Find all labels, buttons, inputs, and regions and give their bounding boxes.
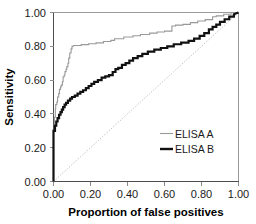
x-tick-label: 1.00 bbox=[228, 188, 249, 200]
y-axis-title: Sensitivity bbox=[3, 68, 15, 126]
y-tick-label: 0.40 bbox=[25, 108, 46, 120]
roc-chart-figure: 1.00 0.80 0.60 0.40 0.20 0.00 0.00 0.20 … bbox=[0, 0, 256, 224]
x-tick-labels: 0.00 0.20 0.40 0.60 0.80 1.00 bbox=[43, 188, 249, 200]
x-tick-label: 0.80 bbox=[191, 188, 212, 200]
x-tick-label: 0.60 bbox=[154, 188, 175, 200]
y-tick-label: 1.00 bbox=[25, 7, 46, 19]
plot-frame bbox=[54, 13, 239, 182]
y-tick-label: 0.80 bbox=[25, 40, 46, 52]
series-line-elisa-a bbox=[54, 13, 239, 182]
x-axis-ticks bbox=[54, 182, 239, 186]
y-tick-label: 0.20 bbox=[25, 142, 46, 154]
legend-label-elisa-a: ELISA A bbox=[175, 128, 214, 140]
y-tick-label: 0.60 bbox=[25, 74, 46, 86]
series-line-elisa-b bbox=[54, 13, 239, 182]
roc-chart-svg: 1.00 0.80 0.60 0.40 0.20 0.00 0.00 0.20 … bbox=[0, 0, 256, 224]
x-tick-label: 0.00 bbox=[43, 188, 64, 200]
y-tick-label: 0.00 bbox=[25, 176, 46, 188]
x-tick-label: 0.20 bbox=[80, 188, 101, 200]
axes bbox=[54, 13, 239, 182]
x-axis-title: Proportion of false positives bbox=[68, 206, 223, 218]
legend-label-elisa-b: ELISA B bbox=[175, 143, 214, 155]
chance-diagonal-line bbox=[54, 13, 239, 182]
x-tick-label: 0.40 bbox=[117, 188, 138, 200]
y-tick-labels: 1.00 0.80 0.60 0.40 0.20 0.00 bbox=[25, 7, 46, 188]
chart-legend: ELISA A ELISA B bbox=[160, 128, 214, 156]
